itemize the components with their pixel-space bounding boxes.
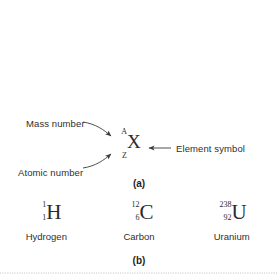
caption-panel-b: (b): [0, 255, 278, 266]
mass-number-label: Mass number: [26, 118, 85, 129]
isotope-carbon: 12 6 C Carbon: [96, 200, 182, 242]
isotope-hydrogen: 1 1 H Hydrogen: [3, 200, 89, 242]
isotope-notation: 1 1 H: [31, 200, 61, 228]
isotope-atomic-number: 92: [224, 214, 232, 222]
element-symbol-label: Element symbol: [176, 143, 245, 154]
isotope-notation: 238 92 U: [217, 200, 247, 228]
isotope-uranium: 238 92 U Uranium: [189, 200, 275, 242]
isotope-atomic-number: 6: [135, 214, 139, 222]
atomic-number-label: Atomic number: [18, 167, 83, 178]
isotope-atomic-number: 1: [42, 214, 46, 222]
isotope-row: 1 1 H Hydrogen 12 6 C Carbon 238 92 U: [0, 200, 278, 242]
mass-number-arrow: [83, 122, 111, 136]
isotope-numbers: 12 6: [124, 200, 139, 228]
atomic-number-arrow: [83, 154, 111, 168]
nuclide-numbers: A Z: [113, 128, 127, 162]
isotope-numbers: 238 92: [217, 200, 232, 228]
caption-panel-a: (a): [0, 178, 278, 189]
isotope-element-symbol: C: [139, 200, 153, 224]
isotope-mass-number: 12: [131, 201, 139, 209]
atomic-number-value: Z: [122, 152, 127, 160]
nuclide-notation-generic: A Z X: [113, 128, 157, 162]
isotope-mass-number: 1: [42, 201, 46, 209]
isotope-numbers: 1 1: [31, 200, 46, 228]
isotope-name: Hydrogen: [3, 231, 89, 242]
isotope-notation: 12 6 C: [124, 200, 153, 228]
isotope-name: Uranium: [189, 231, 275, 242]
isotope-mass-number: 238: [220, 201, 232, 209]
figure-atomic-notation: Mass number Atomic number Element symbol…: [0, 0, 278, 280]
isotope-element-symbol: H: [46, 200, 61, 224]
isotope-element-symbol: U: [232, 200, 247, 224]
element-symbol-value: X: [127, 132, 141, 151]
isotope-name: Carbon: [96, 231, 182, 242]
